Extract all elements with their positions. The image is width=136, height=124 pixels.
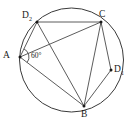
vertex-dot-a: [19, 56, 22, 59]
geometry-figure: 60°AD2CD1B: [0, 0, 136, 124]
angle-at-A-label: 60°: [31, 52, 42, 60]
vertex-label-d1: D1: [114, 65, 124, 76]
vertex-label-a: A: [3, 51, 10, 61]
vertex-label-c: C: [99, 10, 105, 20]
vertex-label-b: B: [81, 110, 87, 120]
chord-c-b: [84, 22, 101, 106]
vertex-dot-d2: [36, 21, 39, 24]
chord-a-b: [20, 57, 84, 106]
vertex-dot-b: [83, 105, 86, 108]
vertex-label-subscript-d2: 2: [29, 16, 32, 22]
chord-c-d1: [101, 22, 111, 70]
chord-layer: [20, 22, 111, 106]
vertex-dot-d1: [110, 69, 113, 72]
chord-d2-b: [37, 22, 84, 106]
vertex-dot-c: [100, 21, 103, 24]
vertex-label-d2: D2: [22, 11, 32, 22]
vertex-label-subscript-d1: 1: [121, 70, 124, 76]
geometry-canvas: [0, 0, 136, 124]
